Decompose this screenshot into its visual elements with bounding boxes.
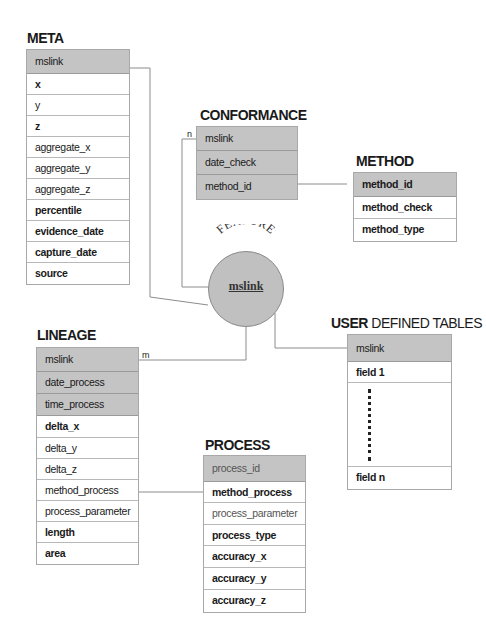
meta-field-aggregate-x: aggregate_x <box>27 137 129 158</box>
lineage-cardinality: m <box>142 350 150 360</box>
process-table: process_id method_process process_parame… <box>203 455 306 613</box>
process-field-process-id: process_id <box>204 456 305 482</box>
meta-field-source: source <box>27 263 129 284</box>
user-defined-table: mslink field 1 field n <box>347 334 452 490</box>
lineage-field-delta-z: delta_z <box>37 459 138 480</box>
user-defined-field-mslink: mslink <box>348 335 451 362</box>
svg-text:FEATURE: FEATURE <box>214 224 279 237</box>
process-field-accuracy-x: accuracy_x <box>204 546 305 568</box>
method-field-method-id: method_id <box>354 173 456 197</box>
conformance-field-method-id: method_id <box>197 175 297 199</box>
lineage-field-date-process: date_process <box>37 372 138 394</box>
conformance-table-title: CONFORMANCE <box>200 107 307 123</box>
lineage-table-title: LINEAGE <box>37 327 96 343</box>
conformance-table: mslink date_check method_id <box>196 126 298 200</box>
meta-field-y: y <box>27 95 129 116</box>
meta-field-aggregate-z: aggregate_z <box>27 179 129 200</box>
user-defined-table-title: USER DEFINED TABLES <box>331 315 482 331</box>
process-field-accuracy-z: accuracy_z <box>204 590 305 612</box>
meta-field-x: x <box>27 74 129 95</box>
meta-field-evidence-date: evidence_date <box>27 221 129 242</box>
lineage-field-area: area <box>37 543 138 564</box>
user-defined-ellipsis <box>348 383 451 467</box>
lineage-feature-link <box>133 320 246 360</box>
conformance-cardinality: n <box>187 129 192 139</box>
process-field-accuracy-y: accuracy_y <box>204 568 305 590</box>
meta-field-z: z <box>27 116 129 137</box>
lineage-field-delta-x: delta_x <box>37 416 138 438</box>
lineage-field-length: length <box>37 522 138 543</box>
meta-field-aggregate-y: aggregate_y <box>27 158 129 179</box>
meta-field-capture-date: capture_date <box>27 242 129 263</box>
conformance-field-date-check: date_check <box>197 151 297 175</box>
method-field-method-type: method_type <box>354 219 456 241</box>
lineage-field-mslink: mslink <box>37 348 138 372</box>
lineage-field-method-process: method_process <box>37 480 138 501</box>
lineage-field-delta-y: delta_y <box>37 438 138 459</box>
process-field-process-type: process_type <box>204 525 305 546</box>
process-field-method-process: method_process <box>204 482 305 503</box>
lineage-field-process-parameter: process_parameter <box>37 501 138 522</box>
meta-field-percentile: percentile <box>27 200 129 221</box>
feature-key-mslink: mslink <box>209 279 283 294</box>
process-table-title: PROCESS <box>205 437 270 453</box>
meta-table-title: META <box>27 30 64 46</box>
user-defined-field-n: field n <box>348 467 451 489</box>
method-table-title: METHOD <box>356 153 414 169</box>
feature-entity: mslink <box>208 251 284 327</box>
meta-table: mslink x y z aggregate_x aggregate_y agg… <box>26 49 130 285</box>
user-defined-field-1: field 1 <box>348 362 451 383</box>
method-field-method-check: method_check <box>354 197 456 219</box>
lineage-field-time-process: time_process <box>37 394 138 416</box>
meta-field-mslink: mslink <box>27 50 129 74</box>
vertical-dots-icon <box>368 389 371 461</box>
process-field-process-parameter: process_parameter <box>204 503 305 525</box>
method-table: method_id method_check method_type <box>353 172 457 242</box>
conformance-field-mslink: mslink <box>197 127 297 151</box>
lineage-table: mslink date_process time_process delta_x… <box>36 347 139 565</box>
